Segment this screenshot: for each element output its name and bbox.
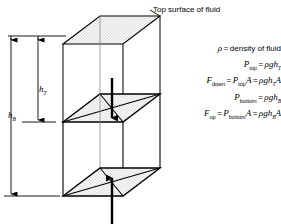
top-surface-face [63, 16, 160, 44]
equation-p-top: Ptop=ρghT [150, 60, 281, 71]
equation-p-bottom: Pbottom=ρghB [150, 93, 281, 104]
figure-container: hT hB Top surface of fluid ρ=density of … [0, 0, 281, 224]
dimension-line-hT [22, 36, 56, 122]
equation-density: ρ=density of fluid [150, 44, 281, 53]
equation-block: ρ=density of fluid Ptop=ρghT Fdown=PtopA… [150, 44, 281, 126]
equation-f-down: Fdown=PtopA=ρghTA [150, 76, 281, 87]
dimension-label-hB: hB [8, 110, 16, 122]
dimension-label-hT: hT [39, 84, 47, 96]
equation-f-up: Fup=PbottomA=ρghBA [150, 109, 281, 120]
top-surface-label: Top surface of fluid [153, 5, 220, 14]
